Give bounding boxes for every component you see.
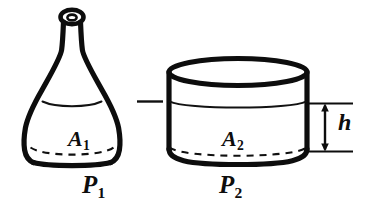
label-pressure-1-subscript: 1: [98, 184, 106, 201]
label-pressure-1: P1: [82, 172, 105, 197]
label-height-h: h: [338, 110, 351, 134]
flask-body-left-wall: [24, 22, 63, 163]
label-pressure-2-subscript: 2: [235, 184, 243, 201]
label-area-2-subscript: 2: [237, 138, 244, 153]
label-area-2: A2: [222, 128, 244, 150]
figure-drawing: [0, 0, 375, 217]
label-pressure-1-symbol: P: [82, 171, 97, 198]
flask-liquid-surface: [43, 102, 102, 107]
label-pressure-2-symbol: P: [219, 171, 234, 198]
flask-lip-bore: [67, 15, 76, 21]
label-area-1: A1: [68, 128, 90, 150]
dimension-arrowhead-up: [321, 104, 329, 112]
label-area-2-symbol: A: [222, 126, 237, 151]
label-area-1-symbol: A: [68, 126, 83, 151]
flask-base: [34, 163, 111, 166]
cylinder-liquid-surface: [170, 102, 306, 108]
label-area-1-subscript: 1: [83, 138, 90, 153]
dimension-arrowhead-down: [321, 144, 329, 152]
label-pressure-2: P2: [219, 172, 242, 197]
fluid-pressure-figure: A1 A2 P1 P2 h: [0, 0, 375, 217]
cylinder-rim: [169, 59, 307, 86]
